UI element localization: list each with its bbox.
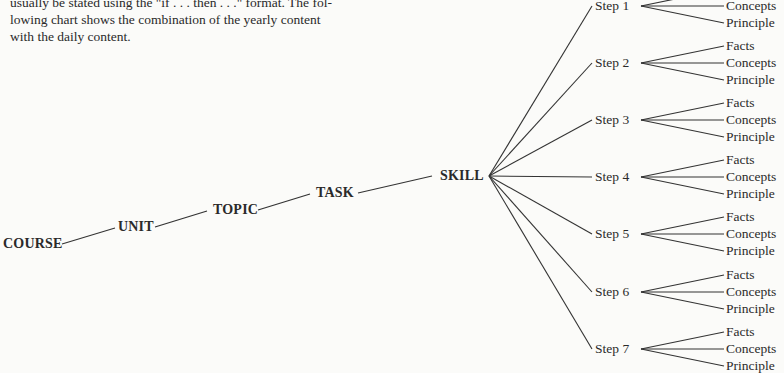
leaf-facts: Facts (726, 210, 755, 224)
node-unit: UNIT (118, 220, 154, 234)
leaf-concepts: Concepts (726, 285, 776, 299)
leaf-facts: Facts (726, 325, 755, 339)
node-skill: SKILL (440, 169, 484, 183)
leaf-facts: Facts (726, 153, 755, 167)
leaf-principle: Principle (726, 244, 775, 258)
node-step-2: Step 2 (595, 56, 629, 70)
leaf-concepts: Concepts (726, 342, 776, 356)
node-topic: TOPIC (213, 203, 258, 217)
node-step-1: Step 1 (595, 0, 629, 13)
leaf-principle: Principle (726, 359, 775, 373)
leaf-concepts: Concepts (726, 170, 776, 184)
node-step-6: Step 6 (595, 285, 629, 299)
node-step-5: Step 5 (595, 227, 629, 241)
leaf-concepts: Concepts (726, 56, 776, 70)
leaf-facts: Facts (726, 96, 755, 110)
leaf-concepts: Concepts (726, 227, 776, 241)
leaf-principle: Principle (726, 302, 775, 316)
leaf-principle: Principle (726, 187, 775, 201)
leaf-facts: Facts (726, 268, 755, 282)
leaf-principle: Principle (726, 73, 775, 87)
node-task: TASK (316, 186, 354, 200)
leaf-concepts: Concepts (726, 113, 776, 127)
node-step-3: Step 3 (595, 113, 629, 127)
node-step-4: Step 4 (595, 170, 629, 184)
leaf-facts: Facts (726, 39, 755, 53)
leaf-principle: Principle (726, 16, 775, 30)
leaf-principle: Principle (726, 130, 775, 144)
node-course: COURSE (3, 237, 63, 251)
node-step-7: Step 7 (595, 342, 629, 356)
leaf-concepts: Concepts (726, 0, 776, 13)
